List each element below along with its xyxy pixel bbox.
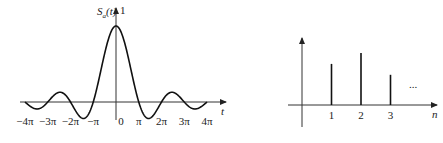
sa-x-tick-label: 0 <box>118 115 124 127</box>
sa-x-tick-label: −2π <box>62 115 80 127</box>
sa-x-tick-label: −3π <box>39 115 57 127</box>
stem-lines: 123 <box>329 53 394 121</box>
stem-continuation: ... <box>409 78 418 90</box>
sa-x-tick-label: −π <box>87 115 99 127</box>
sa-x-tick-label: 2π <box>156 115 168 127</box>
sa-x-tick-label: −4π <box>16 115 34 127</box>
stem-chart: 123 ... n <box>288 38 438 127</box>
figure: Sa(t) 1 t −4π−3π−2π−π0π2π3π4π 123 ... n <box>0 0 443 143</box>
sa-y-label: Sa(t) <box>97 5 117 20</box>
stem-x-tick-label: 1 <box>329 109 335 121</box>
sa-x-tick-label: 4π <box>201 115 213 127</box>
sa-x-label: t <box>221 105 225 117</box>
stem-x-tick-label: 3 <box>388 109 394 121</box>
stem-x-label: n <box>432 108 438 120</box>
sa-peak-label: 1 <box>120 4 126 16</box>
sa-chart: Sa(t) 1 t −4π−3π−2π−π0π2π3π4π <box>16 4 226 127</box>
sa-x-tick-labels: −4π−3π−2π−π0π2π3π4π <box>16 115 213 127</box>
stem-x-tick-label: 2 <box>358 109 364 121</box>
sa-x-tick-label: π <box>136 115 142 127</box>
sa-x-tick-label: 3π <box>179 115 191 127</box>
